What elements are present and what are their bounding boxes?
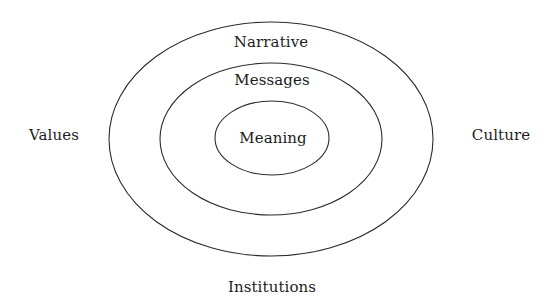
outside-label-institutions: Institutions (228, 280, 316, 295)
outside-label-culture: Culture (472, 128, 530, 143)
outside-label-values: Values (29, 128, 79, 143)
ring-label-messages: Messages (234, 73, 310, 88)
ring-label-narrative: Narrative (234, 35, 308, 50)
diagram-canvas: Narrative Messages Meaning Values Cultur… (0, 0, 548, 303)
ring-label-meaning: Meaning (239, 131, 307, 146)
